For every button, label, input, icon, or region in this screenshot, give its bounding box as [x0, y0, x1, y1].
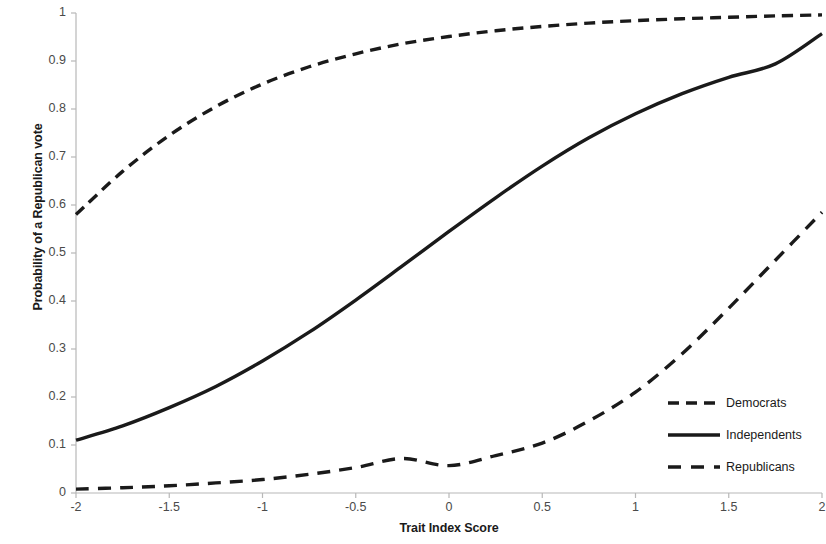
y-tick-label: 0.9	[20, 53, 66, 67]
y-tick-label: 0.1	[20, 437, 66, 451]
legend-item-republicans: Republicans	[668, 451, 826, 483]
legend-item-independents: Independents	[668, 419, 826, 451]
legend-swatch-icon	[668, 461, 720, 473]
legend-label: Independents	[726, 428, 802, 442]
legend-item-democrats: Democrats	[668, 387, 826, 419]
x-tick-label: 1.5	[699, 500, 759, 514]
y-axis-label: Probability of a Republican vote	[31, 87, 45, 347]
x-tick-label: 0.5	[512, 500, 572, 514]
x-tick-label: -0.5	[326, 500, 386, 514]
legend-label: Republicans	[726, 460, 795, 474]
y-tick-label: 0.6	[20, 197, 66, 211]
series-line-independents	[76, 34, 822, 441]
y-tick-label: 0.2	[20, 389, 66, 403]
x-tick-label: -1.5	[139, 500, 199, 514]
legend-label: Democrats	[726, 396, 786, 410]
y-tick-label: 1	[20, 5, 66, 19]
legend-swatch-icon	[668, 429, 720, 441]
chart-legend: DemocratsIndependentsRepublicans	[668, 387, 826, 483]
y-tick-label: 0.5	[20, 245, 66, 259]
x-axis-label: Trait Index Score	[76, 521, 822, 535]
x-tick-label: -2	[46, 500, 106, 514]
x-tick-label: -1	[233, 500, 293, 514]
x-tick-label: 2	[792, 500, 826, 514]
legend-swatch-icon	[668, 397, 720, 409]
x-tick-label: 1	[606, 500, 666, 514]
chart-figure: Probability of a Republican vote Trait I…	[0, 0, 826, 544]
x-tick-label: 0	[419, 500, 479, 514]
y-tick-label: 0.3	[20, 341, 66, 355]
y-tick-label: 0.4	[20, 293, 66, 307]
y-tick-label: 0.7	[20, 149, 66, 163]
y-tick-label: 0.8	[20, 101, 66, 115]
series-line-democrats	[76, 15, 822, 215]
y-tick-label: 0	[20, 485, 66, 499]
